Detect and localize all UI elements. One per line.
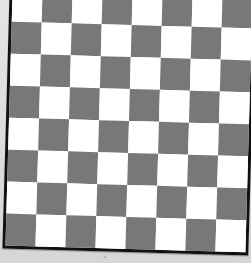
- board-square-dark: [40, 55, 71, 88]
- board-square-light: [221, 28, 251, 61]
- board-square-light: [68, 119, 99, 152]
- board-square-dark: [129, 89, 160, 122]
- board-square-dark: [160, 58, 191, 91]
- board-square-light: [39, 86, 70, 119]
- board-square-light: [190, 59, 221, 92]
- board-square-dark: [156, 186, 187, 219]
- board-square-dark: [222, 0, 251, 28]
- board-square-dark: [189, 91, 220, 124]
- board-square-dark: [96, 184, 127, 217]
- board-square-light: [130, 57, 161, 90]
- board-square-dark: [42, 0, 73, 23]
- photo-scene: ¨: [0, 0, 251, 263]
- board-square-dark: [100, 56, 131, 89]
- board-square-light: [186, 187, 217, 220]
- board-square-light: [217, 156, 248, 189]
- board-square-dark: [127, 153, 158, 186]
- board-square-dark: [9, 86, 40, 119]
- board-square-light: [132, 0, 163, 26]
- board-square-light: [66, 183, 97, 216]
- board-square-dark: [98, 120, 129, 153]
- bottom-mark: ¨: [103, 256, 108, 263]
- board-square-light: [192, 0, 223, 28]
- board-square-dark: [11, 22, 42, 55]
- board-square-dark: [36, 182, 67, 215]
- board-square-dark: [131, 25, 162, 58]
- board-square-light: [99, 88, 130, 121]
- board-square-dark: [5, 214, 36, 247]
- board-square-light: [10, 54, 41, 87]
- board-square-light: [161, 26, 192, 59]
- board-square-dark: [191, 27, 222, 60]
- board-square-dark: [71, 23, 102, 56]
- board-square-dark: [162, 0, 193, 27]
- board-square-dark: [185, 219, 216, 252]
- board-square-light: [35, 214, 66, 247]
- checkerboard: [2, 0, 251, 255]
- board-square-dark: [102, 0, 133, 25]
- board-square-dark: [218, 124, 249, 157]
- board-square-dark: [125, 217, 156, 250]
- board-square-dark: [158, 122, 189, 155]
- board-square-dark: [67, 151, 98, 184]
- board-square-light: [12, 0, 43, 23]
- board-square-dark: [38, 118, 69, 151]
- board-square-light: [159, 90, 190, 123]
- board-square-light: [97, 152, 128, 185]
- board-square-light: [215, 219, 246, 252]
- board-square-light: [41, 23, 72, 56]
- board-square-light: [6, 182, 37, 215]
- board-square-light: [188, 123, 219, 156]
- board-square-light: [126, 185, 157, 218]
- board-square-light: [128, 121, 159, 154]
- board-square-light: [8, 118, 39, 151]
- board-square-light: [157, 154, 188, 187]
- board-square-dark: [7, 150, 38, 183]
- board-square-dark: [65, 215, 96, 248]
- board-square-light: [155, 218, 186, 251]
- board-square-dark: [216, 187, 247, 220]
- board-square-dark: [220, 60, 251, 93]
- board-square-light: [101, 24, 132, 57]
- board-square-light: [95, 216, 126, 249]
- board-square-light: [72, 0, 103, 24]
- board-square-light: [219, 92, 250, 125]
- board-square-light: [70, 55, 101, 88]
- board-square-dark: [69, 87, 100, 120]
- board-square-light: [37, 150, 68, 183]
- board-square-dark: [187, 155, 218, 188]
